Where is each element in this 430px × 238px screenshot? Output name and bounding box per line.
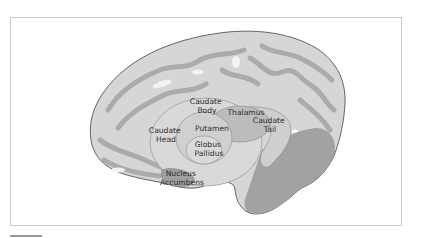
brain-diagram: Caudate Body Thalamus Caudate Tail Cauda… — [0, 0, 430, 238]
label-putamen: Putamen — [195, 124, 229, 133]
label-globus-pallidus: Globus Pallidus — [195, 140, 224, 158]
label-nucleus-accumbens: Nucleus Accumbens — [160, 169, 204, 187]
footer-rule — [10, 235, 42, 237]
